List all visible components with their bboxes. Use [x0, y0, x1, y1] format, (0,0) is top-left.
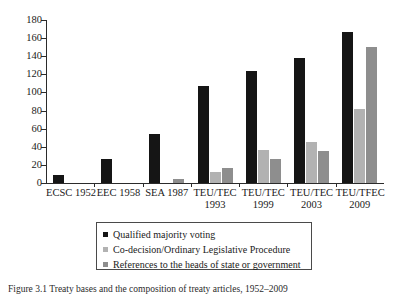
y-axis-tick-label: 160: [26, 33, 42, 43]
y-axis-line: [46, 20, 47, 183]
y-axis-tick: [41, 92, 46, 93]
bar: [222, 168, 233, 183]
x-axis-category-label: TEU/TFEC2009: [336, 187, 384, 210]
x-axis-line: [46, 183, 384, 184]
y-axis-tick-label: 100: [26, 87, 42, 97]
x-axis-category-label: TEU/TEC2003: [287, 187, 335, 210]
x-axis-category-label: TEU/TEC1999: [239, 187, 287, 210]
x-axis-category-label: ECSC 1952: [46, 187, 94, 199]
bar: [366, 47, 377, 183]
figure-caption: Figure 3.1 Treaty bases and the composit…: [8, 284, 400, 295]
y-axis-tick: [41, 111, 46, 112]
legend-item: Qualified majority voting: [103, 227, 305, 241]
y-axis-tick: [41, 74, 46, 75]
bar: [173, 179, 184, 183]
bar: [246, 71, 257, 183]
x-axis-labels: ECSC 1952EEC 1958SEA 1987TEU/TEC1993TEU/…: [46, 187, 384, 217]
bar: [342, 32, 353, 183]
legend-swatch-icon: [103, 232, 108, 237]
bar: [149, 134, 160, 183]
bar: [318, 151, 329, 183]
plot-area: [46, 20, 384, 183]
bar: [210, 172, 221, 183]
x-axis-category-label: SEA 1987: [143, 187, 191, 199]
x-axis-category-label: EEC 1958: [94, 187, 142, 199]
bar: [101, 159, 112, 183]
chart-legend: Qualified majority voting Co-decision/Or…: [96, 222, 312, 270]
legend-item: Co-decision/Ordinary Legislative Procedu…: [103, 242, 305, 256]
y-axis-tick: [41, 38, 46, 39]
bar: [258, 150, 269, 184]
y-axis-tick-label: 140: [26, 51, 42, 61]
legend-item-label: Co-decision/Ordinary Legislative Procedu…: [113, 244, 290, 255]
legend-swatch-icon: [103, 262, 108, 267]
bar: [198, 86, 209, 183]
legend-item: References to the heads of state or gove…: [103, 257, 305, 271]
y-axis-tick: [41, 56, 46, 57]
y-axis-tick: [41, 129, 46, 130]
x-axis-category-label: TEU/TEC1993: [191, 187, 239, 210]
y-axis-tick-label: 180: [26, 15, 42, 25]
y-axis-tick-label: 120: [26, 69, 42, 79]
bar: [53, 175, 64, 183]
legend-item-label: Qualified majority voting: [113, 229, 215, 240]
bar: [354, 109, 365, 183]
y-axis-tick: [41, 20, 46, 21]
bar: [306, 142, 317, 183]
legend-swatch-icon: [103, 247, 108, 252]
y-axis-tick: [41, 147, 46, 148]
bar: [270, 159, 281, 183]
y-axis-tick: [41, 165, 46, 166]
bar: [294, 58, 305, 183]
y-axis-tick: [41, 183, 46, 184]
y-axis-labels: 020406080100120140160180: [0, 20, 42, 183]
legend-item-label: References to the heads of state or gove…: [113, 259, 300, 270]
